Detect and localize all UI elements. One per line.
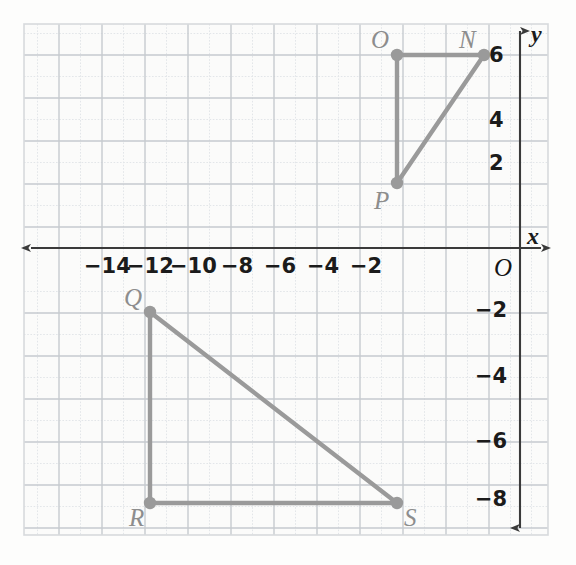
y-tick-label: −6: [475, 431, 507, 452]
x-axis-name: x: [527, 224, 539, 248]
y-tick-label: −8: [475, 489, 507, 510]
x-tick-label: −4: [307, 256, 339, 277]
x-tick-label: −14: [84, 256, 131, 277]
x-tick-label: −6: [264, 256, 296, 277]
coordinate-plane-figure: −14 −12 −10 −8 −6 −4 −2 6 4 2 −2 −4 −6 −…: [0, 0, 576, 565]
vertex-label-n: N: [459, 27, 476, 52]
y-tick-label: 4: [489, 110, 504, 131]
vertex-label-r: R: [129, 505, 144, 530]
vertex-label-q: Q: [124, 285, 142, 310]
x-tick-label: −2: [350, 256, 382, 277]
y-tick-label: −4: [475, 366, 507, 387]
x-tick-label: −8: [221, 256, 253, 277]
y-axis-name: y: [531, 22, 542, 46]
vertex-label-p: P: [374, 188, 389, 213]
vertex-point-s: [391, 497, 403, 509]
vertex-point-r: [144, 497, 156, 509]
y-tick-label: 6: [489, 45, 504, 66]
y-tick-label: 2: [489, 153, 504, 174]
x-tick-label: −12: [127, 256, 174, 277]
coordinate-plane-svg: [0, 0, 576, 565]
x-tick-label: −10: [170, 256, 217, 277]
vertex-point-q: [144, 306, 156, 318]
vertex-point-o: [391, 49, 403, 61]
vertex-point-p: [391, 177, 403, 189]
vertex-label-s: S: [404, 505, 417, 530]
origin-label: O: [494, 255, 512, 280]
vertex-label-o: O: [371, 27, 389, 52]
y-tick-label: −2: [475, 300, 507, 321]
